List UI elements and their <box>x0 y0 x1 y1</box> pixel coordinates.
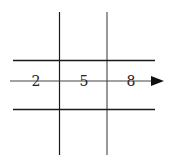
arrow-head-icon <box>151 76 164 86</box>
grid-diagram: 2 5 8 <box>0 0 170 166</box>
label-5: 5 <box>80 73 89 89</box>
label-2: 2 <box>32 73 41 89</box>
label-8: 8 <box>127 73 136 89</box>
